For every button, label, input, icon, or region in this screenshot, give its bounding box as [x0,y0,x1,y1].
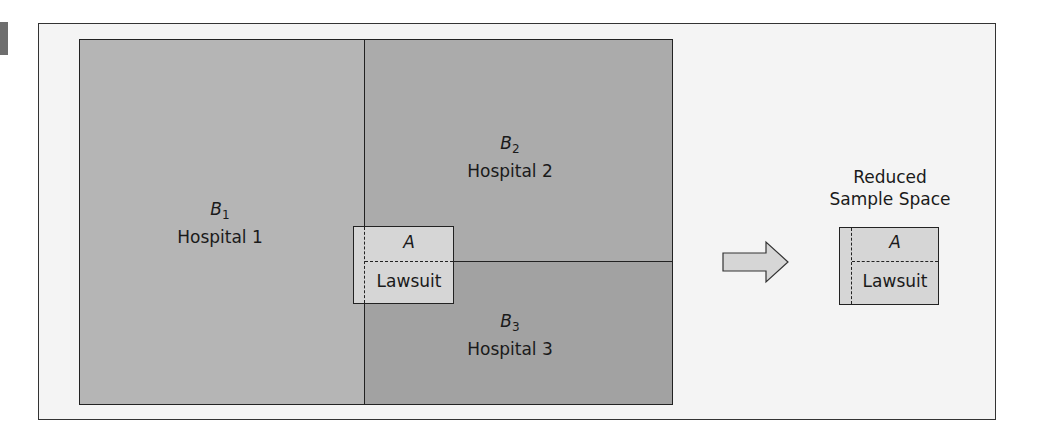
dashed-boundary-horizontal [365,261,453,262]
section-marker [0,22,8,55]
b2-b3-divider [453,261,673,262]
arrow-right-icon [722,240,790,284]
label-b2: B2 Hospital 2 [440,132,580,182]
reduced-dashed-horizontal [852,261,938,262]
reduced-event-label: Lawsuit [852,271,938,291]
reduced-title: Reduced Sample Space [800,166,980,210]
event-a-symbol: A [365,232,453,252]
event-a-label: Lawsuit [365,271,453,291]
label-b3: B3 Hospital 3 [440,310,580,360]
label-b1: B1 Hospital 1 [140,198,300,248]
reduced-event-symbol: A [852,232,938,252]
